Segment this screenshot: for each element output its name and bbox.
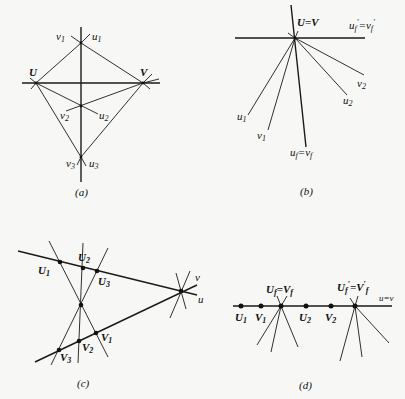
label-V1: V1 [101, 331, 112, 345]
label-V: V [140, 66, 149, 78]
point-U [35, 82, 38, 85]
label-U: U [29, 66, 38, 78]
label-uf-equals-vf: uf=vf [290, 146, 314, 160]
label-u2: u2 [343, 94, 353, 108]
label-v2: v2 [357, 77, 366, 91]
label-V2: V2 [82, 341, 93, 355]
pencil-fp-line-2 [355, 306, 362, 357]
label-U2: U2 [78, 251, 90, 265]
point-U-equals-V [293, 36, 296, 39]
label-u1: u1 [237, 110, 247, 124]
line-v1 [268, 38, 295, 130]
pencil-fp-line-1 [340, 306, 355, 361]
caption-c: (c) [77, 377, 90, 390]
caption-b: (b) [300, 185, 313, 198]
label-U1: U1 [38, 264, 50, 278]
line-U-top [36, 43, 81, 83]
label-u1: u1 [92, 30, 102, 44]
label-v2: v2 [60, 109, 69, 123]
label-v1: v1 [56, 30, 65, 44]
panel-c: U1 U2 U3 V1 V2 V3 v u (c) [18, 241, 204, 390]
point-U2 [304, 304, 309, 309]
label-u-equals-v: u=v [379, 293, 394, 303]
panel-a: U V v1 u1 v2 u2 v3 u3 (a) [22, 27, 160, 199]
line-v2 [295, 38, 364, 75]
label-v3: v3 [66, 157, 75, 171]
caption-a: (a) [75, 186, 88, 199]
line-u1 [248, 38, 295, 115]
label-u: u [198, 293, 204, 305]
label-u2: u2 [99, 109, 109, 123]
line-u2 [295, 38, 347, 95]
label-uf-prime-equals-vf-prime: uf′=vf′ [349, 18, 375, 33]
point-top [80, 42, 83, 45]
line-top-V [81, 43, 143, 83]
point-V1 [259, 304, 264, 309]
point-U2 [81, 266, 86, 271]
label-V1: V1 [255, 311, 266, 325]
figure-canvas: U V v1 u1 v2 u2 v3 u3 (a) U=V uf′=vf′ u1… [0, 0, 405, 399]
label-U2: U2 [299, 311, 311, 325]
caption-d: (d) [299, 379, 312, 392]
label-Uf-prime-equals-Vf-prime: Uf′=V′f [337, 280, 370, 295]
label-u3: u3 [89, 157, 99, 171]
label-U1: U1 [235, 311, 247, 325]
point-V2 [329, 304, 334, 309]
point-bottom [80, 156, 83, 159]
label-V3: V3 [60, 351, 71, 365]
tick-u1 [81, 34, 90, 43]
label-U3: U3 [98, 275, 110, 289]
label-v: v [195, 271, 200, 283]
point-center [79, 303, 84, 308]
point-U3 [95, 269, 100, 274]
label-Uf-equals-Vf: Uf=Vf [266, 283, 294, 297]
label-v1: v1 [257, 129, 266, 143]
point-U1 [58, 260, 63, 265]
pencil-line-2 [170, 271, 190, 318]
pencil-fp-line-3 [355, 306, 389, 343]
label-U-equals-V: U=V [297, 16, 320, 28]
point-middle [80, 105, 83, 108]
pencil-f-line-3 [281, 306, 298, 347]
point-V2 [77, 339, 82, 344]
tick-v1 [71, 36, 81, 43]
pencil-f-line-2 [271, 306, 281, 352]
point-uv-intersection [179, 289, 184, 294]
point-Uf-Vf [279, 304, 284, 309]
point-V1 [94, 331, 99, 336]
label-V2: V2 [325, 311, 336, 325]
panel-d: U1 V1 U2 V2 Uf=Vf Uf′=V′f u=v (d) [233, 280, 394, 392]
point-U1 [239, 304, 244, 309]
point-Uf-prime-Vf-prime [353, 304, 358, 309]
panel-b: U=V uf′=vf′ u1 v1 u2 v2 uf=vf (b) [235, 5, 375, 198]
point-V [142, 82, 145, 85]
tick-u3 [81, 157, 86, 166]
